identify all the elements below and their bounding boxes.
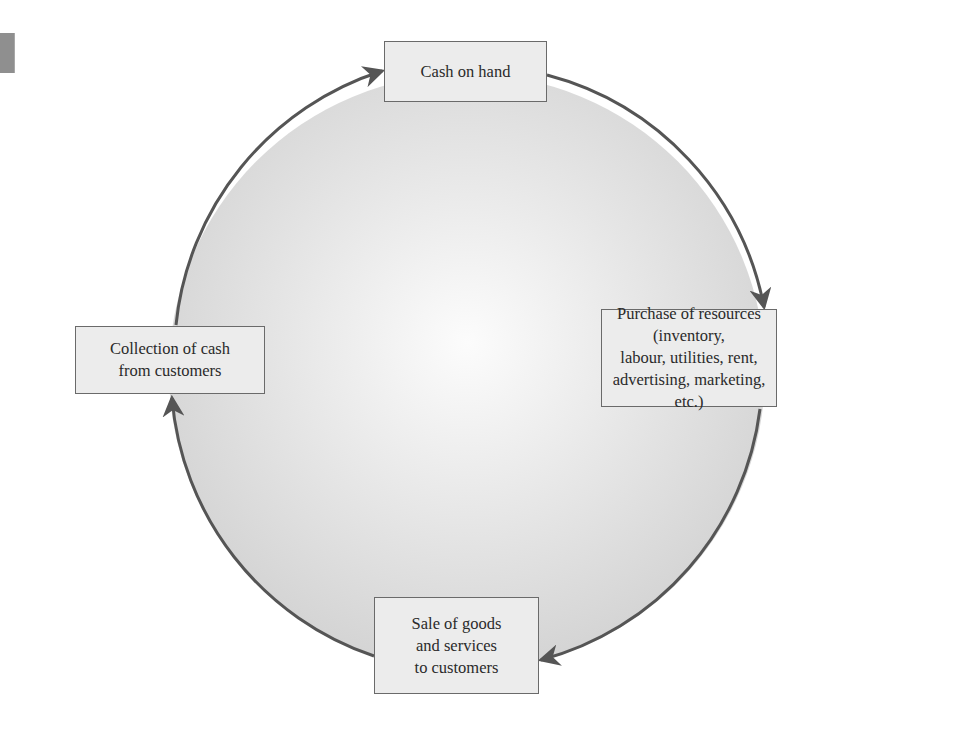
node-collection-of-cash: Collection of cash from customers xyxy=(75,326,265,394)
node-label: Sale of goods and services to customers xyxy=(412,613,502,679)
node-sale-of-goods: Sale of goods and services to customers xyxy=(374,597,539,694)
node-purchase-of-resources: Purchase of resources (inventory, labour… xyxy=(601,309,777,407)
node-label: Cash on hand xyxy=(421,61,511,83)
node-label: Collection of cash from customers xyxy=(110,338,230,382)
node-label: Purchase of resources (inventory, labour… xyxy=(602,303,776,413)
node-cash-on-hand: Cash on hand xyxy=(384,41,547,102)
